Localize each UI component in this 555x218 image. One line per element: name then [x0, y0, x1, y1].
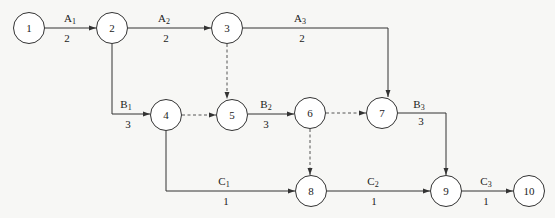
activity-a1-label: A1 — [64, 12, 76, 26]
activity-a1-duration: 2 — [64, 32, 70, 44]
activity-b1-duration: 3 — [125, 118, 131, 130]
activity-a1: A1 2 — [44, 12, 96, 44]
activity-c3-label: C3 — [480, 175, 491, 189]
node-9: 9 — [431, 176, 462, 207]
activity-c3: C3 1 — [462, 175, 513, 207]
node-2: 2 — [97, 13, 128, 44]
activity-c1: C1 1 — [166, 131, 295, 207]
activity-b1: B1 3 — [112, 44, 150, 130]
node-label: 8 — [308, 185, 314, 197]
activity-b3-duration: 3 — [418, 115, 424, 127]
activity-b3: B3 3 — [398, 98, 446, 175]
node-label: 7 — [379, 107, 385, 119]
activity-c1-label: C1 — [218, 175, 229, 189]
arrow-a3 — [243, 28, 388, 97]
node-label: 1 — [26, 22, 32, 34]
arrow-c1 — [166, 131, 295, 191]
node-label: 6 — [307, 107, 313, 119]
node-label: 4 — [163, 109, 169, 121]
node-7: 7 — [367, 98, 398, 129]
activity-b1-label: B1 — [120, 98, 131, 112]
activity-b2: B2 3 — [248, 98, 294, 130]
activity-c2-label: C2 — [367, 175, 378, 189]
activity-b2-duration: 3 — [263, 118, 269, 130]
activity-a2-duration: 2 — [163, 32, 169, 44]
node-label: 9 — [443, 185, 449, 197]
node-label: 5 — [229, 109, 235, 121]
activity-c1-duration: 1 — [223, 195, 229, 207]
activity-b3-label: B3 — [413, 98, 424, 112]
node-4: 4 — [151, 100, 182, 131]
activity-b2-label: B2 — [260, 98, 271, 112]
node-label: 10 — [524, 185, 536, 197]
node-8: 8 — [296, 176, 327, 207]
node-label: 2 — [109, 22, 115, 34]
activity-a3: A3 2 — [243, 12, 388, 97]
node-10: 10 — [514, 176, 545, 207]
node-label: 3 — [224, 22, 230, 34]
node-5: 5 — [217, 100, 248, 131]
network-diagram: A1 2 A2 2 A3 2 B1 3 B2 3 B3 3 C1 1 C2 — [0, 0, 555, 218]
activity-a2-label: A2 — [158, 12, 170, 26]
node-1: 1 — [14, 13, 45, 44]
node-6: 6 — [295, 98, 326, 129]
activity-a2: A2 2 — [128, 12, 211, 44]
activity-a3-duration: 2 — [299, 32, 305, 44]
activity-c2-duration: 1 — [371, 195, 377, 207]
node-3: 3 — [212, 13, 243, 44]
activity-c3-duration: 1 — [483, 195, 489, 207]
activity-a3-label: A3 — [294, 12, 306, 26]
activity-c2: C2 1 — [327, 175, 430, 207]
